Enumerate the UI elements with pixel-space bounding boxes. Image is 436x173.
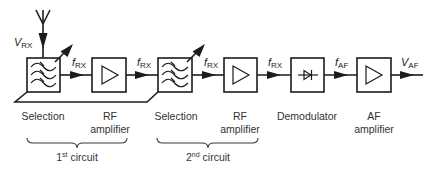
selection-block-2 (158, 44, 205, 92)
caption-rf-amplifier-2-line1: RF (233, 110, 247, 122)
signal-arrow-3 (192, 71, 224, 79)
tuning-arrow-icon (187, 44, 205, 62)
output-arrow (391, 71, 423, 79)
signal-label-4: fRX (268, 56, 283, 70)
caption-rf-amplifier-1-line2: amplifier (90, 123, 130, 135)
rf-amplifier-block-1 (92, 58, 126, 92)
demodulator-block (291, 58, 324, 92)
caption-rf-amplifier-1-line1: RF (103, 110, 117, 122)
ganged-tuning-link (15, 92, 158, 102)
curly-brace-icon (157, 138, 258, 148)
signal-label-1: fRX (72, 56, 87, 70)
af-amplifier-block (357, 58, 391, 92)
caption-rf-amplifier-2-line2: amplifier (220, 123, 260, 135)
caption-selection-2: Selection (154, 110, 197, 122)
signal-arrow-1 (60, 71, 92, 79)
tuning-arrow-icon (55, 44, 73, 62)
signal-arrow-2 (126, 71, 158, 79)
input-voltage-label: VRX (14, 36, 33, 50)
curly-brace-icon (27, 138, 127, 148)
group-label-2nd-circuit: 2nd circuit (186, 151, 230, 163)
signal-arrow-5 (324, 71, 357, 79)
signal-label-2: fRX (137, 56, 152, 70)
caption-selection-1: Selection (21, 110, 64, 122)
rf-amplifier-block-2 (224, 58, 257, 92)
caption-demodulator: Demodulator (277, 110, 338, 122)
antenna-icon (36, 10, 50, 58)
output-voltage-label: VAF (401, 56, 419, 70)
signal-label-5: fAF (335, 56, 348, 70)
caption-af-amplifier-line1: AF (367, 110, 380, 122)
signal-arrow-4 (257, 71, 291, 79)
receiver-block-diagram: VRX fRX fRX (0, 0, 436, 173)
group-label-1st-circuit: 1st circuit (56, 151, 98, 163)
selection-block-1 (27, 44, 73, 92)
caption-af-amplifier-line2: amplifier (354, 123, 394, 135)
signal-label-3: fRX (204, 56, 219, 70)
